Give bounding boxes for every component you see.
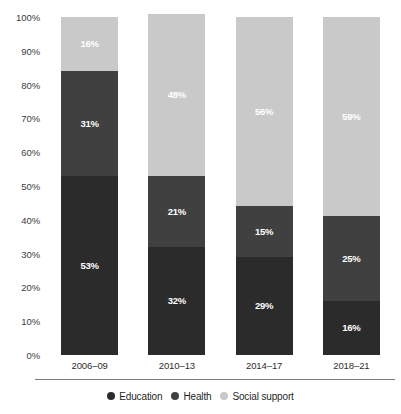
chart-legend: EducationHealthSocial support — [0, 386, 401, 406]
y-axis-tick-label: 80% — [21, 79, 40, 90]
bar-stack: 32%21%48% — [148, 17, 205, 355]
bar-segment-value-label: 59% — [342, 112, 360, 122]
bar-segment-value-label: 16% — [342, 323, 360, 333]
y-axis-tick-label: 60% — [21, 147, 40, 158]
bar-segment[interactable]: 16% — [323, 301, 380, 355]
bar-segment-value-label: 16% — [80, 39, 98, 49]
bar-segment[interactable]: 59% — [323, 17, 380, 216]
legend-item-label: Education — [119, 391, 162, 402]
bar-segment[interactable]: 53% — [61, 176, 118, 355]
y-axis-tick-label: 70% — [21, 113, 40, 124]
bar-stack: 53%31%16% — [61, 17, 118, 355]
legend-item[interactable]: Social support — [220, 391, 293, 402]
bar-segment-value-label: 56% — [255, 107, 273, 117]
plot-area: 53%31%16%32%21%48%29%15%56%16%25%59% — [46, 17, 395, 355]
y-axis-tick-label: 30% — [21, 248, 40, 259]
bar-group: 53%31%16% — [61, 17, 118, 355]
bar-segment[interactable]: 21% — [148, 176, 205, 247]
bar-segment[interactable]: 25% — [323, 216, 380, 301]
x-axis-tick-label: 2014–17 — [221, 360, 308, 371]
legend-item[interactable]: Education — [107, 391, 162, 402]
legend-divider — [35, 379, 395, 380]
bar-segment[interactable]: 16% — [61, 17, 118, 71]
bar-segment[interactable]: 15% — [236, 206, 293, 257]
x-axis-tick-label: 2006–09 — [46, 360, 133, 371]
y-axis: 100%90%80%70%60%50%40%30%20%10%0% — [0, 0, 46, 372]
legend-item-label: Health — [183, 391, 211, 402]
bar-segment[interactable]: 31% — [61, 71, 118, 176]
y-axis-tick-label: 40% — [21, 214, 40, 225]
bar-segment-value-label: 29% — [255, 301, 273, 311]
bar-segment-value-label: 31% — [80, 119, 98, 129]
y-axis-tick-label: 20% — [21, 282, 40, 293]
y-axis-tick-label: 100% — [16, 12, 40, 23]
x-axis: 2006–092010–132014–172018–21 — [46, 356, 395, 376]
bar-segment-value-label: 21% — [168, 207, 186, 217]
bar-stack: 29%15%56% — [236, 17, 293, 355]
x-axis-tick-label: 2010–13 — [133, 360, 220, 371]
y-axis-tick-label: 10% — [21, 316, 40, 327]
legend-swatch-circle-icon — [220, 392, 228, 400]
bar-segment[interactable]: 29% — [236, 257, 293, 355]
bar-segment[interactable]: 56% — [236, 17, 293, 206]
x-axis-tick-label: 2018–21 — [308, 360, 395, 371]
y-axis-tick-label: 90% — [21, 45, 40, 56]
legend-swatch-circle-icon — [171, 392, 179, 400]
legend-item[interactable]: Health — [171, 391, 211, 402]
bar-group: 29%15%56% — [236, 17, 293, 355]
bar-stack: 16%25%59% — [323, 17, 380, 355]
bar-segment[interactable]: 32% — [148, 247, 205, 355]
y-axis-tick-label: 0% — [26, 350, 40, 361]
stacked-bar-chart: 100%90%80%70%60%50%40%30%20%10%0% 53%31%… — [0, 0, 401, 414]
bar-segment-value-label: 32% — [168, 296, 186, 306]
bar-segment-value-label: 25% — [342, 254, 360, 264]
bar-group: 32%21%48% — [148, 17, 205, 355]
bar-segment-value-label: 48% — [168, 90, 186, 100]
bar-segment-value-label: 53% — [80, 261, 98, 271]
bar-segment-value-label: 15% — [255, 227, 273, 237]
bar-group: 16%25%59% — [323, 17, 380, 355]
legend-item-label: Social support — [232, 391, 293, 402]
y-axis-tick-label: 50% — [21, 181, 40, 192]
bar-segment[interactable]: 48% — [148, 14, 205, 176]
legend-swatch-circle-icon — [107, 392, 115, 400]
